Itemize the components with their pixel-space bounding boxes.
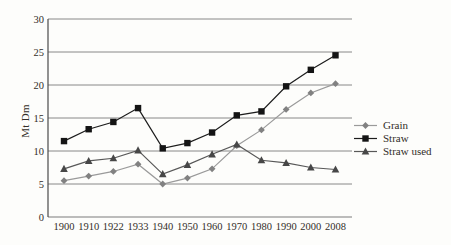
y-tick-label-10: 10 xyxy=(34,146,45,157)
grain-point-2000 xyxy=(307,90,314,97)
grain-point-1900 xyxy=(61,177,68,184)
straw-point-1960 xyxy=(209,129,215,135)
straw-legend-marker-icon xyxy=(353,134,378,143)
straw-point-1910 xyxy=(85,126,91,132)
x-tick-label-1900: 1900 xyxy=(54,221,75,232)
x-tick-label-1960: 1960 xyxy=(202,221,223,232)
grain-point-1910 xyxy=(85,173,92,180)
x-tick-label-1910: 1910 xyxy=(78,221,99,232)
straw-used-line xyxy=(64,144,336,174)
y-axis-title: Mt Dm xyxy=(19,104,31,138)
grain-line xyxy=(64,84,336,184)
y-tick-label-5: 5 xyxy=(39,179,44,190)
grain-legend-marker-icon xyxy=(353,121,378,130)
legend-marker-shape xyxy=(362,135,368,141)
y-tick-label-15: 15 xyxy=(34,113,45,124)
x-tick-label-1970: 1970 xyxy=(226,221,247,232)
legend-item-grain: Grain xyxy=(353,119,432,132)
legend-marker-shape xyxy=(362,122,369,129)
straw-used-point-1950 xyxy=(184,161,192,168)
x-tick-label-1933: 1933 xyxy=(128,221,149,232)
straw-point-2000 xyxy=(308,67,314,73)
grain-point-2008 xyxy=(332,80,339,87)
x-tick-label-1950: 1950 xyxy=(177,221,198,232)
legend-item-straw: Straw xyxy=(353,132,432,145)
x-tick-label-1940: 1940 xyxy=(152,221,173,232)
legend-label-grain: Grain xyxy=(383,119,408,132)
y-tick-label-20: 20 xyxy=(34,80,45,91)
straw-used-legend-marker-icon xyxy=(353,147,378,156)
straw-used-point-1933 xyxy=(134,146,142,153)
x-tick-label-1922: 1922 xyxy=(103,221,124,232)
legend-label-straw: Straw xyxy=(383,132,409,145)
x-tick-label-1990: 1990 xyxy=(276,221,297,232)
straw-point-1922 xyxy=(110,119,116,125)
grain-point-1922 xyxy=(110,168,117,175)
line-chart-figure: 0510152025301900191019221933194019501960… xyxy=(0,0,451,245)
legend-label-straw-used: Straw used xyxy=(383,145,432,158)
straw-point-2008 xyxy=(332,52,338,58)
straw-point-1950 xyxy=(184,140,190,146)
legend: Grain Straw Straw used xyxy=(353,119,432,158)
straw-used-point-1980 xyxy=(258,156,266,163)
straw-point-1933 xyxy=(135,105,141,111)
legend-item-straw-used: Straw used xyxy=(353,145,432,158)
straw-point-1980 xyxy=(258,108,264,114)
grain-point-1950 xyxy=(184,175,191,182)
x-tick-label-2000: 2000 xyxy=(300,221,321,232)
straw-point-1900 xyxy=(61,138,67,144)
straw-line xyxy=(64,55,336,148)
y-tick-label-0: 0 xyxy=(39,212,44,223)
straw-point-1940 xyxy=(160,145,166,151)
y-tick-label-25: 25 xyxy=(34,47,45,58)
x-tick-label-1980: 1980 xyxy=(251,221,272,232)
straw-point-1990 xyxy=(283,83,289,89)
x-tick-label-2008: 2008 xyxy=(325,221,346,232)
straw-point-1970 xyxy=(234,112,240,118)
y-tick-label-30: 30 xyxy=(34,14,45,25)
